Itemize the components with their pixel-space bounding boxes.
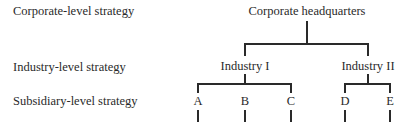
connector-to-industry-1 [244, 43, 246, 56]
connector-industry-1-branch [197, 83, 292, 85]
connector-to-c [290, 83, 292, 93]
level-label-corporate: Corporate-level strategy [13, 5, 134, 18]
stub-a [197, 110, 199, 122]
stub-e [389, 110, 391, 122]
node-subsidiary-c: C [287, 95, 295, 108]
node-subsidiary-a: A [193, 95, 202, 108]
level-label-subsidiary: Subsidiary-level strategy [13, 95, 138, 108]
node-subsidiary-e: E [386, 95, 394, 108]
stub-b [244, 110, 246, 122]
connector-to-d [344, 83, 346, 93]
node-industry-2: Industry II [341, 60, 394, 73]
node-corporate-headquarters: Corporate headquarters [249, 5, 366, 18]
connector-to-e [389, 83, 391, 93]
connector-to-a [197, 83, 199, 93]
node-subsidiary-d: D [340, 95, 349, 108]
connector-root-stem [306, 21, 308, 44]
connector-industry-2-branch [344, 83, 391, 85]
stub-c [290, 110, 292, 122]
connector-to-industry-2 [367, 43, 369, 56]
stub-d [344, 110, 346, 122]
connector-root-branch [244, 43, 369, 45]
node-subsidiary-b: B [241, 95, 249, 108]
level-label-industry: Industry-level strategy [13, 61, 126, 74]
node-industry-1: Industry I [221, 60, 270, 73]
